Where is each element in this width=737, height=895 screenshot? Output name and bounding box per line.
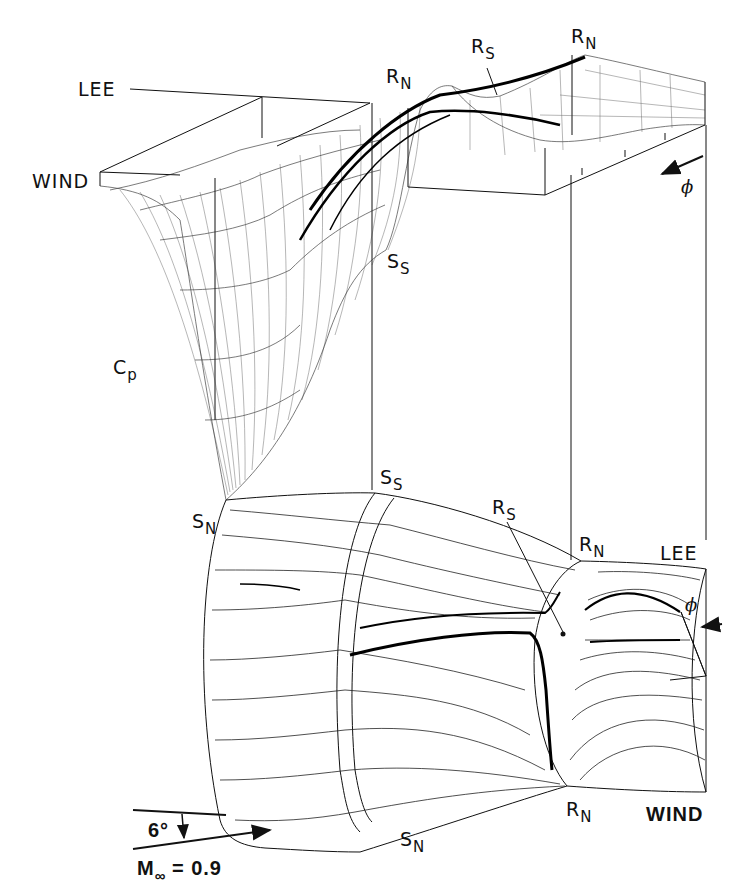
cp-surface-hatching [120,65,705,495]
rn-label-left-top: RN [386,67,411,92]
lee-label-top: LEE [78,80,116,99]
rs-label-top: RS [471,37,495,62]
rs-label-body: RS [492,498,516,523]
rn-label-right-top: RN [571,27,596,52]
phi-direction-arrow-top [662,156,703,174]
surface-streamlines [210,510,705,821]
diagram-drawing [0,0,737,895]
cp-axis-label: Cp [113,358,137,383]
wind-label-top: WIND [32,172,89,191]
phi-label-body: ϕ [685,596,698,614]
phi-direction-arrow-bottom [702,624,722,627]
rs-leader-bottom [507,522,563,632]
phi-label-top: ϕ [681,178,694,196]
angle-of-attack-label: 6° [148,820,169,840]
cp-surface-and-flow-diagram: LEE WIND ϕ Cp RN RS RN SS SN SS RS RN LE… [0,0,737,895]
sn-label-top: SN [192,512,216,537]
wind-label-body: WIND [646,804,703,824]
cp-plot-frame [100,55,706,560]
ss-label-body: SS [380,468,403,493]
mach-number-label: M∞ = 0.9 [137,858,222,883]
separation-lines [240,584,680,770]
lee-label-body: LEE [660,544,698,563]
rs-point [561,632,566,637]
rn-label-body-bottom: RN [566,800,591,825]
body-outline [204,493,706,852]
ss-label-top: SS [387,252,410,277]
rn-label-body-top: RN [579,535,604,560]
sn-label-body: SN [400,830,424,855]
cp-ridge-band [300,57,585,240]
rs-leader-top [487,68,497,95]
